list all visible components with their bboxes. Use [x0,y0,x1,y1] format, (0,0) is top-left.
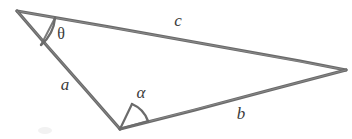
angle-alpha-label: α [137,84,146,101]
side-b-label: b [237,105,246,122]
side-a-line-highlight [17,11,120,129]
angle-theta-label: θ [57,26,65,42]
side-a-label: a [61,76,70,93]
angle-theta-chord [41,18,55,45]
angle-alpha-arc [132,104,148,121]
side-c-label: c [174,12,182,29]
triangle-figure: c a b θ α [0,0,352,139]
side-b-line-highlight [120,70,346,129]
